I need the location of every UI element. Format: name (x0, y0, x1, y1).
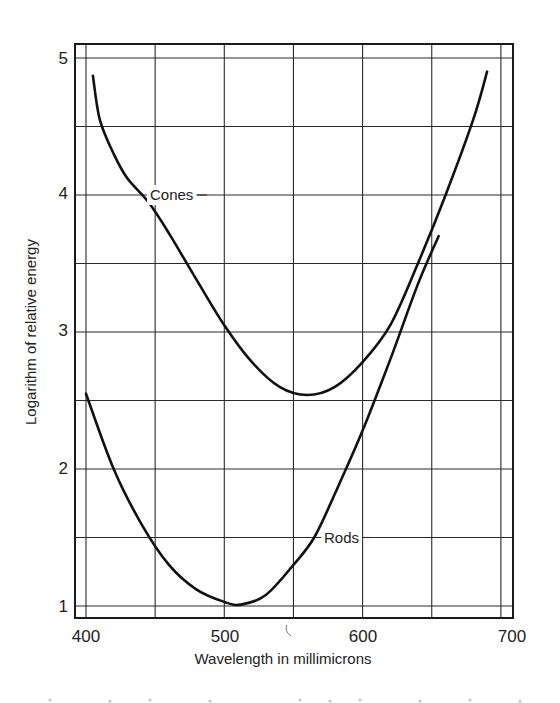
scan-dot (518, 699, 521, 702)
x-tick-400: 400 (72, 627, 100, 646)
scan-dot (328, 699, 331, 702)
x-tick-600: 600 (349, 627, 377, 646)
cones-label: Cones (150, 186, 193, 203)
chart-canvas: Cones Rods 5 4 3 2 1 400 500 600 700 Wav… (0, 0, 560, 703)
grid (75, 44, 513, 618)
x-tick-700: 700 (498, 627, 526, 646)
x-axis-title: Wavelength in millimicrons (195, 650, 372, 667)
scan-dot (358, 698, 361, 701)
y-axis-tick-labels: 5 4 3 2 1 (59, 49, 68, 616)
y-tick-4: 4 (59, 184, 68, 203)
y-tick-3: 3 (59, 321, 68, 340)
scan-dot (418, 699, 421, 702)
scan-artifact-mark (286, 625, 291, 636)
rods-label: Rods (324, 529, 359, 546)
scan-dot (468, 698, 471, 701)
y-tick-5: 5 (59, 49, 68, 68)
y-tick-1: 1 (59, 597, 68, 616)
scan-dot (108, 699, 111, 702)
x-tick-500: 500 (211, 627, 239, 646)
rods-curve (86, 236, 439, 605)
scan-dot (48, 698, 51, 701)
y-tick-2: 2 (59, 459, 68, 478)
scan-dot (298, 698, 301, 701)
x-axis-tick-labels: 400 500 600 700 (72, 627, 526, 646)
y-axis-title: Logarithm of relative energy (22, 239, 39, 425)
scan-bleed-dots (48, 698, 521, 702)
cones-curve (93, 72, 487, 395)
scan-dot (148, 698, 151, 701)
scan-dot (208, 699, 211, 702)
